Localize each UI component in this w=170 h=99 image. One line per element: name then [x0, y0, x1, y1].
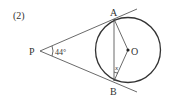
point-label-a: A	[110, 7, 118, 18]
tangent-circle-diagram: (2) P A B O 44° x	[0, 0, 170, 99]
tangent-line-pb	[40, 51, 137, 92]
angle-label-44: 44°	[55, 48, 66, 57]
point-label-b: B	[110, 86, 117, 97]
tangent-line-pa	[40, 9, 137, 51]
problem-label: (2)	[13, 10, 25, 22]
angle-arc-p	[52, 46, 53, 56]
center-point-o	[126, 48, 129, 51]
point-label-o: O	[131, 46, 138, 57]
point-label-p: P	[29, 46, 35, 57]
radius-oa	[114, 19, 128, 50]
